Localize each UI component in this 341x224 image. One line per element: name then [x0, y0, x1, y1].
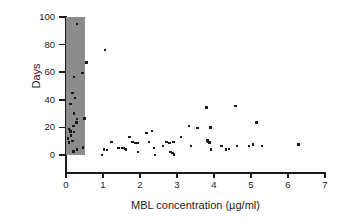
x-axis-tick-label: 6 — [278, 180, 298, 190]
data-point — [190, 145, 192, 147]
data-point — [73, 76, 75, 78]
x-axis-tick-label: 2 — [130, 180, 150, 190]
data-point — [136, 142, 138, 144]
scatter-plot-figure: Days 020406080100 01234567 MBL concentra… — [0, 0, 341, 224]
data-point — [71, 92, 73, 94]
data-point — [75, 121, 77, 123]
x-axis-tick — [139, 172, 141, 178]
data-point — [173, 153, 175, 155]
data-point — [73, 131, 75, 133]
x-axis-tick — [213, 172, 215, 178]
data-point — [220, 145, 222, 147]
y-axis-tick-label: 20 — [15, 122, 55, 132]
data-point — [255, 121, 257, 123]
y-axis-tick-label: 0 — [15, 150, 55, 160]
data-point — [196, 127, 198, 129]
data-point — [234, 105, 236, 107]
x-axis-tick — [176, 172, 178, 178]
data-point — [180, 136, 182, 138]
data-point — [72, 125, 74, 127]
data-point — [252, 143, 254, 145]
data-point — [85, 61, 87, 63]
plot-area — [66, 17, 325, 155]
x-axis-tick-label: 1 — [93, 180, 113, 190]
x-axis-tick-label: 7 — [315, 180, 335, 190]
x-axis-tick-label: 3 — [167, 180, 187, 190]
data-point — [71, 140, 73, 142]
x-axis-tick — [250, 172, 252, 178]
data-point — [74, 97, 76, 99]
data-point — [210, 148, 212, 150]
x-axis-tick-label: 5 — [241, 180, 261, 190]
x-axis-tick-label: 4 — [204, 180, 224, 190]
data-point — [236, 145, 238, 147]
data-point — [228, 148, 230, 150]
data-point — [68, 141, 70, 143]
data-point — [188, 125, 190, 127]
data-point — [76, 148, 78, 150]
data-point — [261, 145, 263, 147]
x-axis-tick — [324, 172, 326, 178]
data-point — [101, 154, 103, 156]
data-point — [70, 134, 72, 136]
data-point — [117, 147, 119, 149]
y-axis-tick-label: 100 — [15, 12, 55, 22]
data-point — [73, 112, 75, 114]
x-axis-tick — [65, 172, 67, 178]
x-axis-tick — [102, 172, 104, 178]
data-point — [145, 132, 147, 134]
data-point — [76, 23, 78, 25]
data-point — [154, 154, 156, 156]
data-point — [83, 117, 85, 119]
data-point — [162, 145, 164, 147]
data-point — [125, 148, 127, 150]
data-point — [137, 151, 139, 153]
data-point — [81, 72, 83, 74]
data-point — [209, 126, 211, 128]
data-point — [110, 141, 112, 143]
x-axis-title: MBL concentration (µg/ml) — [66, 199, 325, 211]
y-axis-tick-label: 40 — [15, 95, 55, 105]
data-point — [205, 106, 207, 108]
y-axis-tick-label: 80 — [15, 40, 55, 50]
data-point — [72, 150, 74, 152]
data-point — [67, 137, 69, 139]
x-axis-tick — [287, 172, 289, 178]
data-point — [76, 118, 78, 120]
data-point — [148, 141, 150, 143]
data-point — [106, 149, 108, 151]
data-point — [248, 145, 250, 147]
data-point — [104, 49, 106, 51]
x-axis-tick-label: 0 — [56, 180, 76, 190]
data-point — [69, 103, 71, 105]
data-point — [69, 130, 71, 132]
data-point — [82, 146, 84, 148]
data-point — [128, 136, 130, 138]
data-points-layer — [66, 17, 325, 155]
data-point — [172, 141, 174, 143]
data-point — [168, 142, 170, 144]
data-point — [153, 147, 155, 149]
data-point — [297, 143, 299, 145]
data-point — [151, 130, 153, 132]
y-axis-tick-label: 60 — [15, 67, 55, 77]
data-point — [208, 141, 210, 143]
